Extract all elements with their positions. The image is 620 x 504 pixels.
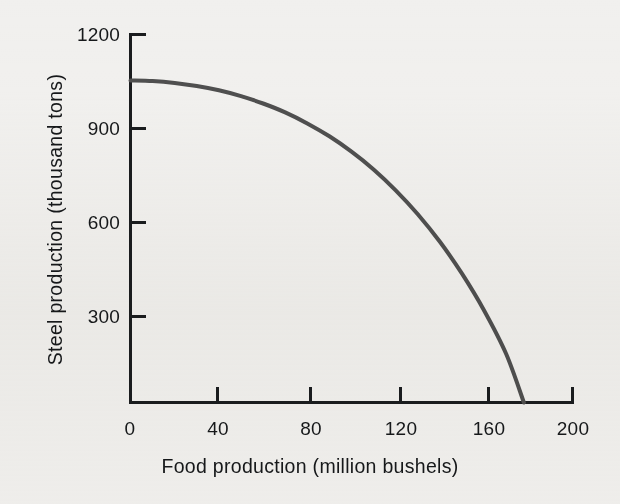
y-axis-title: Steel production (thousand tons) (44, 10, 67, 430)
x-tick-label-160: 160 (473, 418, 505, 440)
y-axis-ticks (131, 35, 146, 317)
x-tick-label-40: 40 (207, 418, 229, 440)
x-tick-label-120: 120 (385, 418, 417, 440)
y-tick-label-1200: 1200 (58, 24, 120, 46)
x-tick-label-80: 80 (300, 418, 322, 440)
y-tick-label-900: 900 (58, 118, 120, 140)
y-tick-label-300: 300 (58, 306, 120, 328)
x-axis-title: Food production (million bushels) (0, 455, 620, 478)
x-tick-label-0: 0 (125, 418, 136, 440)
ppf-curve (131, 81, 524, 403)
production-possibilities-chart: 1200 900 600 300 0 40 80 120 160 200 Foo… (0, 0, 620, 504)
x-tick-label-200: 200 (557, 418, 589, 440)
y-tick-label-600: 600 (58, 212, 120, 234)
